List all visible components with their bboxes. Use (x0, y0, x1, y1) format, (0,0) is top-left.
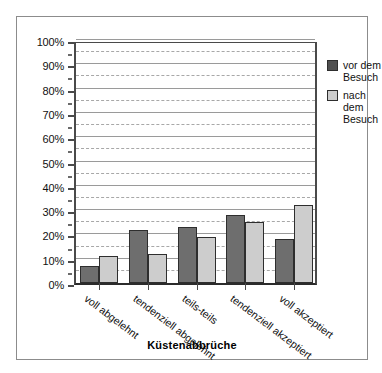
y-tick-mark-minor (68, 200, 72, 202)
legend-label: nach dem Besuch (343, 89, 382, 125)
gridline-major (76, 39, 315, 40)
y-tick-mark-minor (68, 151, 72, 153)
y-tick-label: 30% (43, 207, 64, 218)
bar-group (80, 43, 118, 283)
x-category-label: tendenziell abgelehnt (131, 293, 217, 362)
bar[interactable] (80, 266, 99, 283)
y-tick-mark-minor (68, 54, 72, 56)
bar[interactable] (148, 254, 167, 283)
bar[interactable] (275, 239, 294, 283)
y-tick-label: 100% (37, 37, 64, 48)
bar[interactable] (99, 256, 118, 283)
dark-gray-swatch (327, 60, 338, 71)
y-tick-label: 80% (43, 85, 64, 96)
x-tick-mark (294, 283, 295, 290)
x-category-label: teils-teils (180, 293, 219, 326)
y-tick-mark-minor (68, 224, 72, 226)
bar[interactable] (294, 205, 313, 283)
bar[interactable] (178, 227, 197, 283)
y-tick-label: 40% (43, 182, 64, 193)
y-tick-mark-minor (68, 127, 72, 129)
bar[interactable] (129, 230, 148, 283)
x-tick-mark (99, 283, 100, 290)
y-tick-mark-minor (68, 103, 72, 105)
light-gray-swatch (327, 90, 338, 101)
x-axis-category-labels: voll abgelehnttendenziell abgelehntteils… (74, 293, 324, 363)
plot-area (74, 42, 317, 285)
bar[interactable] (197, 237, 216, 283)
y-tick-mark-major (68, 285, 74, 287)
y-tick-mark-minor (68, 78, 72, 80)
x-tick-mark (197, 283, 198, 290)
x-tick-mark (245, 283, 246, 290)
bar-group (178, 43, 216, 283)
y-tick-label: 60% (43, 134, 64, 145)
bar-group (275, 43, 313, 283)
bar[interactable] (226, 215, 245, 283)
x-tick-mark (148, 283, 149, 290)
y-tick-label: 50% (43, 158, 64, 169)
y-tick-mark-minor (68, 176, 72, 178)
bar-group (226, 43, 264, 283)
y-tick-label: 70% (43, 109, 64, 120)
y-axis: 0%10%20%30%40%50%60%70%80%90%100% (17, 17, 74, 292)
y-tick-mark-minor (68, 249, 72, 251)
x-axis-title: Küstenabbrüche (17, 339, 367, 351)
bar-group (129, 43, 167, 283)
y-tick-label: 90% (43, 61, 64, 72)
y-tick-label: 10% (43, 255, 64, 266)
legend-entry[interactable]: vor dem Besuch (327, 59, 382, 83)
y-tick-label: 0% (49, 280, 65, 291)
bar[interactable] (245, 222, 264, 283)
legend-entry[interactable]: nach dem Besuch (327, 89, 382, 125)
chart-legend: vor dem Besuchnach dem Besuch (327, 59, 382, 131)
y-tick-label: 20% (43, 231, 64, 242)
legend-label: vor dem Besuch (343, 59, 381, 83)
figure-frame: 0%10%20%30%40%50%60%70%80%90%100% voll a… (16, 16, 368, 360)
y-tick-mark-minor (68, 273, 72, 275)
